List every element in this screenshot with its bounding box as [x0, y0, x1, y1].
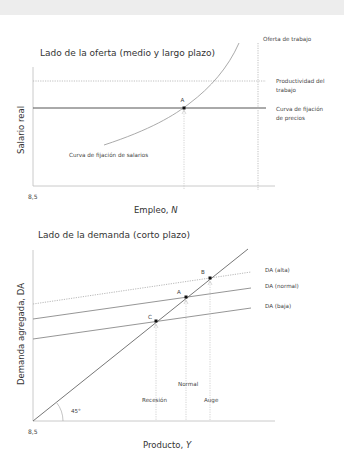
demand-x-label: Producto, Y	[143, 440, 192, 450]
labor-supply-label: Oferta de trabajo	[263, 36, 312, 43]
productivity-label-1: Productividad del	[276, 78, 325, 84]
wage-curve-label: Curva de fijación de salarios	[69, 152, 148, 159]
demand-chart: Lado de la demanda (corto plazo) 45° B A…	[16, 230, 299, 450]
supply-point-a	[183, 107, 186, 110]
supply-title: Lado de la oferta (medio y largo plazo)	[40, 48, 215, 58]
supply-origin-label: 8,5	[28, 193, 38, 200]
demand-point-c-label: C	[148, 314, 152, 320]
demand-point-c	[155, 320, 158, 323]
normal-label: Normal	[178, 381, 199, 387]
da-low-label: DA (baja)	[265, 303, 291, 310]
demand-point-a-label: A	[177, 289, 181, 295]
demand-title: Lado de la demanda (corto plazo)	[38, 230, 190, 240]
da-normal-line	[33, 288, 251, 319]
angle-label: 45°	[71, 408, 81, 414]
supply-y-label: Salario real	[16, 106, 26, 154]
productivity-label-2: trabajo	[276, 87, 296, 94]
demand-point-b-label: B	[201, 269, 205, 275]
demand-point-b	[209, 277, 212, 280]
supply-chart: Lado de la oferta (medio y largo plazo) …	[16, 36, 325, 215]
supply-x-label: Empleo, N	[134, 205, 178, 215]
da-normal-label: DA (normal)	[265, 283, 299, 289]
demand-origin-label: 8,5	[28, 428, 38, 435]
demand-point-a	[185, 296, 188, 299]
price-curve-label-2: de precios	[276, 115, 305, 122]
price-curve-label-1: Curva de fijación	[276, 106, 324, 113]
angle-arc	[56, 402, 63, 421]
supply-point-a-label: A	[181, 97, 185, 103]
recession-label: Recesión	[142, 397, 167, 403]
charts-canvas: Lado de la oferta (medio y largo plazo) …	[0, 0, 344, 456]
forty-five-degree-line	[33, 249, 248, 421]
demand-y-label: Demanda agregada, DA	[16, 283, 26, 385]
boom-label: Auge	[204, 397, 219, 404]
da-high-line	[33, 272, 251, 304]
da-high-label: DA (alta)	[265, 267, 290, 273]
wage-setting-curve	[104, 43, 239, 145]
